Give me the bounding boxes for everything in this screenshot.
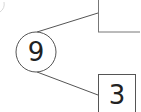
branch-line-lower [37, 72, 98, 95]
upper-factor-box [99, 0, 141, 32]
branch-line-upper [37, 13, 98, 32]
factor-tree-diagram: 9 3 [0, 0, 140, 112]
root-node-label: 9 [28, 37, 45, 67]
partial-arc [0, 2, 4, 12]
lower-factor-label: 3 [109, 80, 126, 110]
